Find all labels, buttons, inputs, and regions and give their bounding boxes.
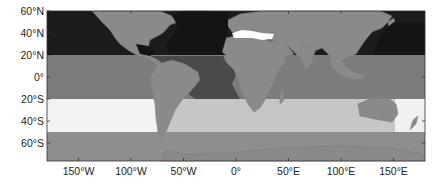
x-tick-label: 50°E bbox=[277, 165, 300, 177]
y-tick-label: 0° bbox=[34, 71, 44, 83]
y-tick-label: 20°S bbox=[21, 93, 44, 105]
world-map-figure: 60°N 40°N 20°N 0° 20°S 40°S 60°S 150°W 1… bbox=[0, 0, 444, 185]
region-north-atlantic-dark bbox=[165, 11, 228, 55]
region-south-subtropical-tasman bbox=[395, 99, 425, 132]
x-tick-label: 50°W bbox=[171, 165, 197, 177]
x-tick-label: 150°W bbox=[63, 165, 95, 177]
x-tick-label: 0° bbox=[231, 165, 241, 177]
y-tick-label: 40°N bbox=[21, 27, 44, 39]
y-tick-label: 60°N bbox=[21, 5, 44, 17]
plot-area bbox=[47, 11, 425, 161]
y-tick-label: 40°S bbox=[21, 115, 44, 127]
x-tick-label: 100°E bbox=[327, 165, 356, 177]
x-tick-label: 100°W bbox=[115, 165, 147, 177]
y-tick-label: 20°N bbox=[21, 49, 44, 61]
region-south-subtropical-pacific bbox=[47, 99, 162, 132]
y-tick-label: 60°S bbox=[21, 137, 44, 149]
x-tick-label: 150°E bbox=[379, 165, 408, 177]
